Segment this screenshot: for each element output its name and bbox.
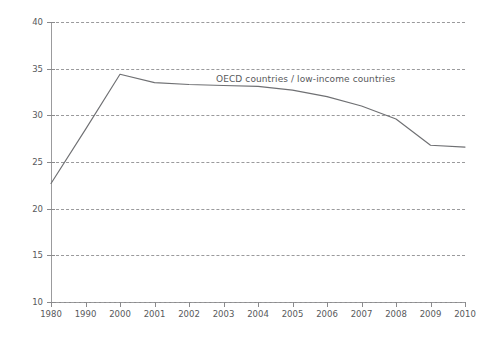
- series-annotation-label: OECD countries / low-income countries: [216, 74, 395, 84]
- chart-container: Ratio 10152025303540 1980199020002001200…: [0, 0, 480, 337]
- series-layer: [0, 0, 480, 337]
- series-line-oecd-low-income: [51, 74, 465, 183]
